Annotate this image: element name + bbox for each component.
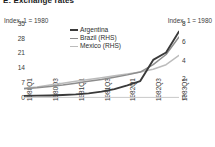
y-axis-tick-label: 28 [9, 36, 25, 43]
legend-swatch-icon [70, 46, 78, 47]
series-line-mexico [24, 55, 179, 88]
legend-item: Argentina [70, 27, 121, 34]
y2-axis-tick-label: 8 [182, 21, 198, 28]
y-axis-tick-label: 21 [9, 50, 25, 57]
x-axis-tick-label: 1983Q1 [182, 78, 188, 101]
exchange-rates-chart-panel: E: Exchange rates Index, 1 = 1980 Index,… [0, 0, 215, 147]
y-axis-tick-label: 14 [9, 65, 25, 72]
legend-swatch-icon [70, 29, 78, 31]
y2-axis-tick-label: 4 [182, 58, 198, 65]
legend-item-label: Brazil (RHS) [80, 35, 117, 42]
y-axis-tick-label: 0 [9, 95, 25, 102]
panel-title: E: Exchange rates [3, 0, 74, 5]
y-axis-tick-label: 35 [9, 21, 25, 28]
legend-item: Brazil (RHS) [70, 35, 121, 42]
legend-item-label: Mexico (RHS) [80, 43, 121, 50]
chart-legend: ArgentinaBrazil (RHS)Mexico (RHS) [70, 27, 121, 50]
legend-item-label: Argentina [80, 27, 108, 34]
legend-swatch-icon [70, 38, 78, 39]
legend-item: Mexico (RHS) [70, 43, 121, 50]
y-axis-tick-label: 7 [9, 80, 25, 87]
y2-axis-tick-label: 6 [182, 39, 198, 46]
